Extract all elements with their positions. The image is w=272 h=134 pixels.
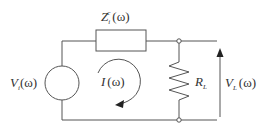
current-arrow-head-icon xyxy=(115,100,124,108)
terminal-bottom-icon xyxy=(177,118,181,122)
impedance-label: Zic(ω) xyxy=(101,9,130,26)
source-voltage-label: Vi(ω) xyxy=(10,75,37,92)
resistor-icon xyxy=(169,62,189,100)
current-label: I(ω) xyxy=(100,74,125,89)
load-resistor-label: RL xyxy=(194,74,207,91)
load-voltage-label: VL(ω) xyxy=(225,75,256,92)
wire-top-left xyxy=(62,41,96,66)
terminal-top-icon xyxy=(177,39,181,43)
impedance-box xyxy=(96,30,146,51)
voltage-source-icon xyxy=(45,66,79,100)
wires xyxy=(62,41,217,120)
circuit-diagram: Zic(ω) Vi(ω) I(ω) RL VL(ω) xyxy=(0,0,272,134)
voltage-arrow-head-icon xyxy=(217,48,224,57)
